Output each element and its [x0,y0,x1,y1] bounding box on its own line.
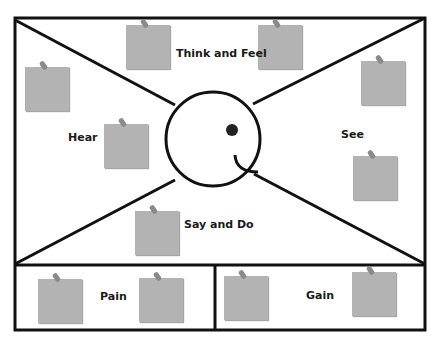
sticky-note[interactable] [38,279,82,323]
sticky-note[interactable] [25,67,69,111]
panel-label-gain: Gain [306,289,334,302]
sticky-note[interactable] [352,272,396,316]
sticky-note[interactable] [104,124,148,168]
quadrant-label-see: See [341,128,364,141]
sticky-note[interactable] [139,278,183,322]
quadrant-label-say-do: Say and Do [184,218,254,231]
quadrant-label-hear: Hear [68,131,98,144]
sticky-note[interactable] [126,25,170,69]
panel-label-pain: Pain [100,290,127,303]
quadrant-label-think-feel: Think and Feel [176,47,267,60]
sticky-note[interactable] [224,276,268,320]
sticky-note[interactable] [353,156,397,200]
sticky-note[interactable] [361,61,405,105]
sticky-note[interactable] [135,211,179,255]
smiley-face-icon [166,92,260,186]
